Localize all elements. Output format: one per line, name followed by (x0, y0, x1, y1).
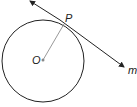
center-point-o (42, 59, 45, 62)
label-o: O (32, 55, 41, 66)
radius-op (43, 24, 64, 60)
label-p: P (65, 13, 72, 24)
tangent-line-m (30, 1, 60, 20)
tangent-line-m-right (60, 20, 124, 67)
label-m: m (128, 65, 137, 76)
